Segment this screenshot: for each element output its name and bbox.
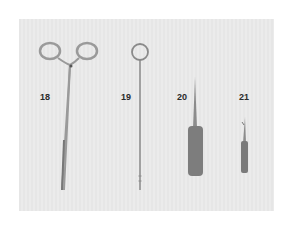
hook-probe-icon [241, 117, 248, 173]
instrument-number-label: 21 [239, 92, 249, 102]
instrument-number-label: 19 [121, 92, 131, 102]
instruments-illustration [0, 0, 290, 229]
awl-icon [188, 77, 203, 176]
instrument-number-label: 18 [40, 92, 50, 102]
hemostat-icon [40, 43, 97, 190]
ring-probe-icon [132, 44, 148, 190]
instrument-number-label: 20 [177, 92, 187, 102]
